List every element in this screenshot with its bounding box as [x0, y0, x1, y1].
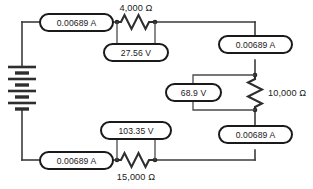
ammeter-top-left-reading: 0.00689 A: [57, 18, 97, 28]
circuit-diagram: 4,000 Ω 27.56 V 0.00689 A 0.00689 A 10,0…: [0, 0, 313, 189]
ammeter-right-bottom-reading: 0.00689 A: [236, 130, 276, 140]
voltmeter-bottom-reading: 103.35 V: [118, 126, 153, 136]
ammeter-right-bottom[interactable]: 0.00689 A: [219, 126, 292, 143]
voltmeter-top-reading: 27.56 V: [121, 48, 151, 58]
resistor-15000-ohm-label: 15,000 Ω: [117, 172, 155, 182]
ammeter-right-top-reading: 0.00689 A: [236, 40, 276, 50]
resistor-4000-ohm: [115, 15, 158, 29]
battery-symbol: [8, 67, 36, 109]
ammeter-right-top[interactable]: 0.00689 A: [219, 36, 292, 53]
resistor-4000-ohm-label: 4,000 Ω: [119, 3, 152, 13]
ammeter-bottom-left[interactable]: 0.00689 A: [40, 152, 113, 169]
resistor-10000-ohm-label: 10,000 Ω: [268, 88, 306, 98]
resistor-10000-ohm-zigzag: [248, 75, 262, 110]
circuit-schematic-canvas: 4,000 Ω 27.56 V 0.00689 A 0.00689 A 10,0…: [0, 0, 313, 189]
voltmeter-across-4000-ohm[interactable]: 27.56 V: [104, 44, 168, 61]
voltmeter-right-lead-bottom: [193, 101, 255, 110]
resistor-10000-ohm: [248, 73, 262, 113]
resistor-15000-ohm: [115, 153, 158, 167]
ammeter-top-left[interactable]: 0.00689 A: [40, 14, 113, 31]
voltmeter-top-leads: [117, 22, 155, 45]
ammeter-bottom-left-reading: 0.00689 A: [57, 156, 97, 166]
resistor-15000-ohm-zigzag: [117, 153, 155, 167]
voltmeter-across-10000-ohm[interactable]: 68.9 V: [166, 84, 221, 101]
voltmeter-across-15000-ohm[interactable]: 103.35 V: [101, 122, 171, 139]
voltmeter-right-reading: 68.9 V: [181, 88, 207, 98]
resistor-4000-ohm-zigzag: [117, 15, 155, 29]
